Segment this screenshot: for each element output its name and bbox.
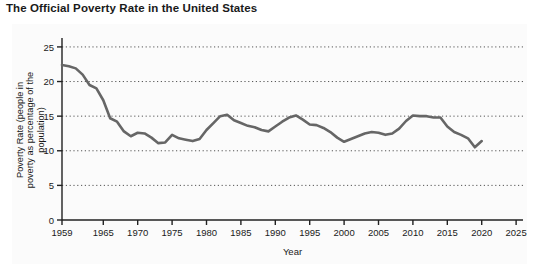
x-tick-label: 1959	[51, 227, 72, 238]
x-tick-label: 1990	[265, 227, 286, 238]
y-tick-label: 25	[43, 42, 54, 53]
x-tick-label: 1975	[162, 227, 183, 238]
x-tick-label: 2005	[368, 227, 389, 238]
poverty-rate-line-chart: 0510152025 19591965197019751980198519901…	[0, 0, 539, 271]
x-tick-label: 2010	[402, 227, 423, 238]
x-axis-title: Year	[283, 246, 302, 257]
y-axis-title-line: poverty as percentage of the	[25, 72, 35, 188]
x-tick-label: 2025	[506, 227, 527, 238]
x-tick-label: 2000	[334, 227, 355, 238]
y-axis-title-line: Poverty Rate (people in	[15, 82, 25, 178]
x-axis-tick-labels: 1959196519701975198019851990199520002005…	[51, 227, 526, 238]
x-tick-label: 1970	[127, 227, 148, 238]
axes	[62, 38, 523, 220]
y-axis-title-line: population)	[36, 107, 46, 152]
series-line	[62, 65, 482, 147]
y-tick-label: 0	[49, 215, 54, 226]
x-tick-label: 1965	[93, 227, 114, 238]
x-tick-label: 1980	[196, 227, 217, 238]
axis-ticks	[57, 47, 516, 225]
y-tick-label: 5	[49, 180, 54, 191]
x-tick-label: 2020	[471, 227, 492, 238]
x-tick-label: 2015	[437, 227, 458, 238]
y-axis-title: Poverty Rate (people inpoverty as percen…	[15, 72, 46, 188]
data-series-line	[62, 65, 482, 147]
x-tick-label: 1985	[230, 227, 251, 238]
x-tick-label: 1995	[299, 227, 320, 238]
y-tick-label: 20	[43, 76, 54, 87]
